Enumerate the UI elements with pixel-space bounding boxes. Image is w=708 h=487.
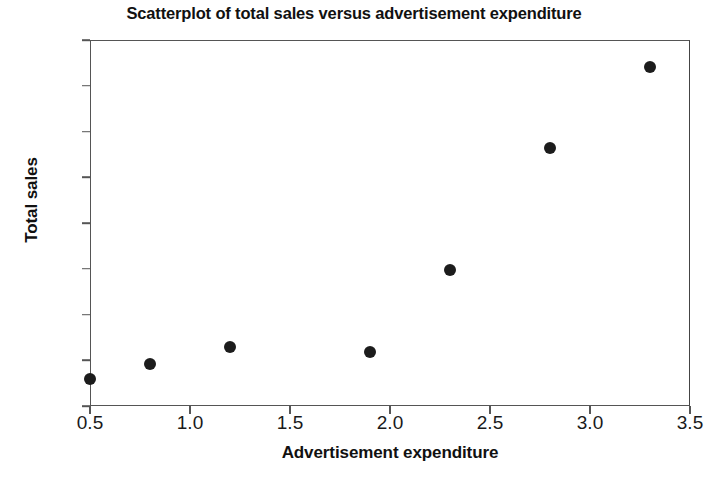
y-tick-mark (82, 314, 90, 316)
y-tick-mark (82, 359, 90, 361)
scatterplot-figure: Scatterplot of total sales versus advert… (0, 0, 708, 487)
x-tick-label: 2.0 (350, 412, 430, 434)
chart-title: Scatterplot of total sales versus advert… (0, 4, 708, 23)
y-axis-title: Total sales (22, 100, 42, 300)
y-tick-mark (82, 268, 90, 270)
x-tick-label: 3.0 (550, 412, 630, 434)
x-tick-label: 2.5 (450, 412, 530, 434)
y-tick-mark (82, 176, 90, 178)
x-axis-title: Advertisement expenditure (90, 443, 690, 463)
y-tick-mark (82, 39, 90, 41)
x-tick-label: 3.5 (650, 412, 708, 434)
y-tick-mark (82, 85, 90, 87)
y-tick-mark (82, 222, 90, 224)
x-tick-label: 1.5 (250, 412, 330, 434)
y-tick-mark (82, 131, 90, 133)
x-tick-label: 1.0 (150, 412, 230, 434)
x-tick-label: 0.5 (50, 412, 130, 434)
plot-area-frame (90, 40, 690, 406)
